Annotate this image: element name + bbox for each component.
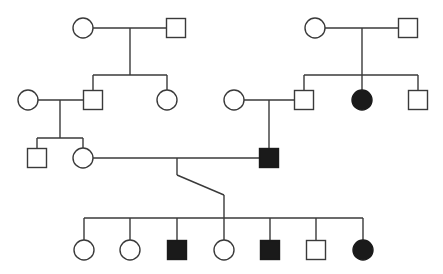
- pedigree-canvas: [0, 0, 443, 274]
- unaffected-female-circle-iv-1: [74, 240, 94, 260]
- unaffected-male-square-i-2: [167, 19, 186, 38]
- unaffected-female-circle-ii-4: [224, 90, 244, 110]
- pedigree-line: [177, 175, 224, 195]
- unaffected-male-square-i-4: [399, 19, 418, 38]
- pedigree-diagram: [0, 0, 443, 274]
- unaffected-female-circle-iv-2: [120, 240, 140, 260]
- affected-male-square-iii-3: [260, 149, 279, 168]
- unaffected-male-square-ii-5: [295, 91, 314, 110]
- unaffected-female-circle-ii-1: [18, 90, 38, 110]
- unaffected-female-circle-ii-3: [157, 90, 177, 110]
- individuals: [18, 18, 428, 260]
- unaffected-female-circle-iv-4: [214, 240, 234, 260]
- affected-female-circle-iv-7: [353, 240, 373, 260]
- affected-male-square-iv-3: [168, 241, 187, 260]
- affected-female-circle-ii-6: [352, 90, 372, 110]
- unaffected-male-square-iv-6: [307, 241, 326, 260]
- relationship-lines: [37, 28, 418, 240]
- unaffected-male-square-iii-1: [28, 149, 47, 168]
- unaffected-female-circle-i-1: [73, 18, 93, 38]
- unaffected-female-circle-i-3: [305, 18, 325, 38]
- unaffected-male-square-ii-7: [409, 91, 428, 110]
- unaffected-male-square-ii-2: [84, 91, 103, 110]
- affected-male-square-iv-5: [261, 241, 280, 260]
- unaffected-female-circle-iii-2: [73, 148, 93, 168]
